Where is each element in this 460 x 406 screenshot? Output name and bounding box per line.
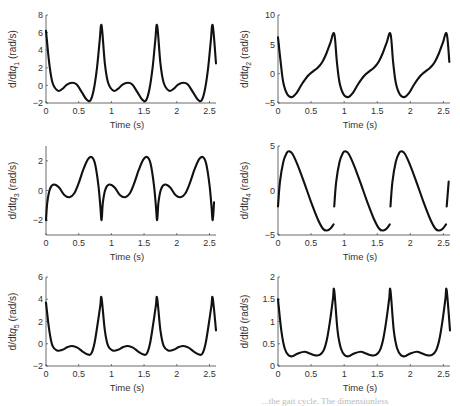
x-tick-label: 0.5	[72, 369, 85, 379]
x-tick-label: 2	[174, 106, 179, 116]
x-tick-label: 0.5	[72, 238, 85, 248]
y-axis-label: d/dtq4 (rad/s)	[239, 162, 252, 220]
subplot-q4: 00.511.522.5−505Time (s)d/dtq4 (rad/s)	[239, 141, 450, 262]
y-tick-label: 2	[270, 272, 275, 282]
data-line	[447, 182, 449, 207]
subplot-q3: 00.511.522.5−202Time (s)d/dtq3 (rad/s)	[7, 146, 216, 262]
x-tick-label: 0.5	[305, 238, 318, 248]
x-tick-label: 1.5	[138, 369, 151, 379]
y-tick-label: −5	[265, 98, 275, 108]
x-axis-label: Time (s)	[110, 382, 144, 393]
data-line	[390, 151, 446, 230]
y-axis-label: d/dtθ (rad/s)	[239, 295, 250, 349]
y-tick-label: 6	[38, 272, 43, 282]
x-tick-label: 2	[174, 238, 179, 248]
y-tick-label: 8	[38, 10, 43, 20]
x-tick-label: 0	[275, 106, 280, 116]
y-tick-label: 0	[270, 69, 275, 79]
x-tick-label: 0	[43, 238, 48, 248]
x-axis-label: Time (s)	[343, 251, 377, 262]
x-tick-label: 1	[342, 369, 347, 379]
x-tick-label: 0.5	[72, 106, 85, 116]
y-tick-label: 4	[38, 45, 43, 55]
y-axis-label: d/dtq3 (rad/s)	[7, 162, 20, 220]
data-line	[334, 151, 390, 230]
y-tick-label: 2	[38, 317, 43, 327]
x-tick-label: 2.5	[203, 369, 216, 379]
y-tick-label: −2	[33, 98, 43, 108]
x-tick-label: 0	[275, 238, 280, 248]
x-tick-label: 2.5	[203, 106, 216, 116]
data-line	[278, 151, 334, 230]
x-tick-label: 1.5	[371, 106, 384, 116]
subplot-q5: 00.511.522.5−20246Time (s)d/dtq5 (rad/s)	[7, 272, 216, 393]
x-tick-label: 0.5	[305, 106, 318, 116]
y-axis-label: d/dtq2 (rad/s)	[239, 30, 252, 88]
x-axis-label: Time (s)	[343, 382, 377, 393]
data-line	[278, 33, 449, 97]
y-tick-label: 0	[270, 361, 275, 371]
subplot-q1: 00.511.522.5−202468Time (s)d/dtq1 (rad/s…	[7, 10, 216, 130]
y-tick-label: −2	[33, 361, 43, 371]
caption-fragment: ...the gait cycle. The dimensionless	[262, 396, 388, 406]
y-tick-label: 1.5	[262, 294, 275, 304]
y-tick-label: −2	[33, 215, 43, 225]
y-tick-label: 0	[38, 339, 43, 349]
x-tick-label: 1.5	[371, 238, 384, 248]
x-tick-label: 1	[342, 106, 347, 116]
y-tick-label: 6	[38, 28, 43, 38]
data-line	[278, 289, 450, 357]
subplot-theta: 00.511.522.500.511.52Time (s)d/dtθ (rad/…	[239, 272, 450, 393]
x-tick-label: 0	[275, 369, 280, 379]
x-tick-label: 1	[342, 238, 347, 248]
data-line	[46, 25, 216, 101]
data-line	[46, 297, 216, 355]
y-tick-label: 2	[38, 63, 43, 73]
y-axis-label: d/dtq1 (rad/s)	[7, 30, 20, 88]
y-tick-label: 5	[270, 141, 275, 151]
x-tick-label: 1.5	[138, 238, 151, 248]
x-tick-label: 2.5	[203, 238, 216, 248]
x-tick-label: 0.5	[305, 369, 318, 379]
y-tick-label: 1	[270, 317, 275, 327]
subplot-q2: 00.511.522.5−50510Time (s)d/dtq2 (rad/s)	[239, 10, 450, 130]
y-axis-label: d/dtq5 (rad/s)	[7, 293, 20, 351]
x-tick-label: 1.5	[371, 369, 384, 379]
x-tick-label: 2.5	[437, 238, 450, 248]
x-tick-label: 0	[43, 369, 48, 379]
x-tick-label: 1	[109, 106, 114, 116]
data-line	[46, 157, 214, 220]
y-tick-label: 10	[265, 10, 275, 20]
y-tick-label: 2	[38, 156, 43, 166]
x-tick-label: 2.5	[437, 369, 450, 379]
x-tick-label: 1	[109, 369, 114, 379]
y-tick-label: 0	[270, 186, 275, 196]
x-axis-label: Time (s)	[110, 251, 144, 262]
x-tick-label: 2.5	[437, 106, 450, 116]
y-tick-label: 5	[270, 40, 275, 50]
x-axis-label: Time (s)	[110, 119, 144, 130]
x-tick-label: 1.5	[138, 106, 151, 116]
x-axis-label: Time (s)	[343, 119, 377, 130]
x-tick-label: 1	[109, 238, 114, 248]
x-tick-label: 2	[408, 106, 413, 116]
y-tick-label: 4	[38, 294, 43, 304]
x-tick-label: 2	[174, 369, 179, 379]
x-tick-label: 2	[408, 238, 413, 248]
y-tick-label: 0	[38, 186, 43, 196]
y-tick-label: 0.5	[262, 339, 275, 349]
y-tick-label: −5	[265, 230, 275, 240]
y-tick-label: 0	[38, 81, 43, 91]
x-tick-label: 2	[408, 369, 413, 379]
x-tick-label: 0	[43, 106, 48, 116]
